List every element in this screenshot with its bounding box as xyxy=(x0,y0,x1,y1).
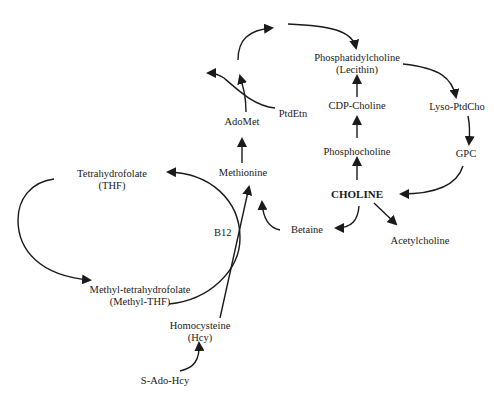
pathway-arrows xyxy=(0,0,494,402)
node-lyso-ptdcho: Lyso-PtdCho xyxy=(429,101,484,113)
arrow-hcy-to-methionine xyxy=(220,187,249,318)
arrow-ptdcho-to-lyso xyxy=(403,64,456,97)
node-sublabel: (Hcy) xyxy=(170,332,231,344)
node-s-ado-hcy: S-Ado-Hcy xyxy=(141,375,189,387)
arrow-sadohcy-to-hcy xyxy=(180,343,199,371)
arrow-lyso-to-gpc xyxy=(468,116,470,144)
node-choline: CHOLINE xyxy=(331,188,383,200)
node-methionine: Methionine xyxy=(219,167,267,179)
node-betaine: Betaine xyxy=(291,224,323,236)
arrow-betaine-to-methionine xyxy=(262,202,280,230)
node-homocysteine: Homocysteine (Hcy) xyxy=(170,320,231,344)
arrow-gpc-to-choline xyxy=(401,166,463,194)
arrow-choline-to-betaine xyxy=(336,206,359,228)
node-phosphocholine: Phosphocholine xyxy=(323,146,390,158)
node-adomet: AdoMet xyxy=(225,116,260,128)
node-label: Phosphatidylcholine xyxy=(314,52,400,64)
arrow-adomet-loop xyxy=(238,28,272,60)
node-sublabel: (Methyl-THF) xyxy=(90,296,191,308)
node-thf: Tetrahydrofolate (THF) xyxy=(77,168,147,192)
arrow-choline-to-acetylcholine xyxy=(374,203,396,224)
node-label: Tetrahydrofolate xyxy=(77,168,147,180)
node-label: Methyl-tetrahydrofolate xyxy=(90,284,191,296)
node-methyl-thf: Methyl-tetrahydrofolate (Methyl-THF) xyxy=(90,284,191,308)
arrow-to-ptdcho xyxy=(288,24,356,48)
node-sublabel: (THF) xyxy=(77,180,147,192)
arrow-thf-to-methylthf xyxy=(18,179,90,280)
node-gpc: GPC xyxy=(456,148,476,160)
arrow-ptdetn-to-left xyxy=(208,73,275,108)
node-acetylcholine: Acetylcholine xyxy=(391,235,450,247)
node-phosphatidylcholine: Phosphatidylcholine (Lecithin) xyxy=(314,52,400,76)
node-cdp-choline: CDP-Choline xyxy=(328,100,385,112)
node-label: Homocysteine xyxy=(170,320,231,332)
node-sublabel: (Lecithin) xyxy=(314,64,400,76)
cofactor-b12-label: B12 xyxy=(214,227,232,238)
node-ptdetn: PtdEtn xyxy=(279,108,308,120)
